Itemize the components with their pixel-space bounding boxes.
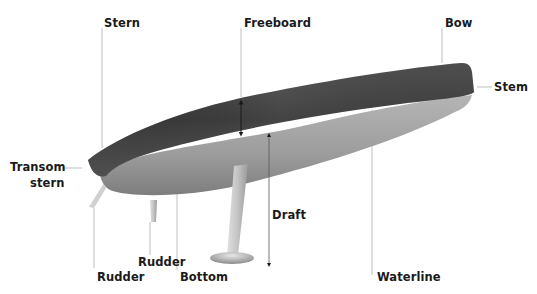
keel-bulb-shape bbox=[210, 252, 254, 264]
hull-diagram bbox=[0, 0, 537, 294]
label-draft: Draft bbox=[272, 208, 306, 222]
inner-rudder-shape bbox=[150, 200, 157, 222]
label-freeboard: Freeboard bbox=[244, 16, 311, 30]
label-rudder-outer: Rudder bbox=[97, 270, 145, 284]
label-transom-stern-line1: Transom bbox=[10, 160, 66, 174]
label-transom-stern-line2: stern bbox=[30, 176, 65, 190]
label-bow: Bow bbox=[445, 16, 473, 30]
label-stern: Stern bbox=[104, 16, 140, 30]
label-rudder-inner: Rudder bbox=[138, 255, 186, 269]
label-waterline: Waterline bbox=[377, 270, 441, 284]
label-bottom: Bottom bbox=[180, 270, 228, 284]
label-stem: Stem bbox=[494, 80, 528, 94]
